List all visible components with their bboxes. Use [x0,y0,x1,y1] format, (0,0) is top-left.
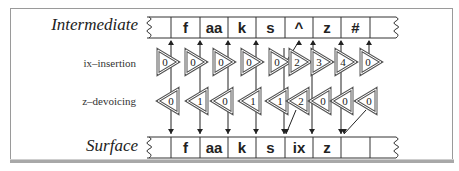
state-label: 2 [298,95,304,107]
state-label: 0 [162,56,168,68]
surface-tape: f aa k s ix z [147,137,399,158]
intermediate-cell: ^ [295,19,304,36]
surface-cell: aa [206,139,223,156]
two-level-diagram: f aa k s ^ z # f aa k s ix z [0,0,459,171]
state-label: 0 [222,95,228,107]
tape-break-right-icon [394,17,399,38]
state-label: 0 [168,95,174,107]
state-label: 0 [274,56,280,68]
intermediate-cell: # [351,19,360,36]
tape-break-left-icon [147,17,152,38]
intermediate-cell: s [266,19,274,36]
state-label: 0 [342,95,348,107]
state-label: 0 [366,95,372,107]
tape-break-right-icon [394,137,399,158]
state-label: 4 [340,56,346,68]
intermediate-cell: f [183,19,189,36]
intermediate-cell: k [238,19,247,36]
state-label: 1 [250,95,256,107]
state-label: 0 [190,56,196,68]
state-label: 1 [197,95,203,107]
state-label: 0 [365,56,371,68]
state-label: 0 [320,95,326,107]
ix-insertion-transducer: 0 0 0 0 0 2 3 4 0 [158,50,381,74]
surface-cell: f [183,139,189,156]
state-label: 3 [316,56,322,68]
surface-cell: s [266,139,274,156]
state-label: 2 [294,56,300,68]
surface-cell: k [238,139,247,156]
surface-cell: ix [293,139,306,156]
intermediate-cell: aa [206,19,223,36]
intermediate-cell: z [323,19,331,36]
intermediate-tape: f aa k s ^ z # [147,17,399,38]
state-label: 0 [218,56,224,68]
state-label: 1 [277,95,283,107]
state-label: 0 [246,56,252,68]
surface-cell: z [323,139,331,156]
z-devoicing-transducer: 0 1 0 1 1 2 0 0 0 [158,89,376,113]
tape-break-left-icon [147,137,152,158]
